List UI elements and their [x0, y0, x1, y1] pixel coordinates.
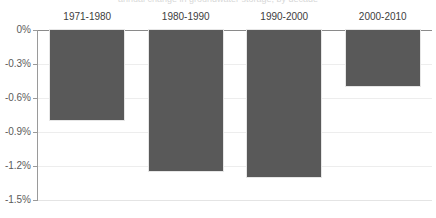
- y-axis-tick-label: -1.2%: [0, 161, 31, 171]
- x-axis-category-label: 1990-2000: [235, 11, 334, 22]
- y-axis-labels: 0%-0.3%-0.6%-0.9%-1.2%-1.5%: [0, 0, 31, 218]
- y-axis-tick-label: -1.5%: [0, 195, 31, 205]
- y-tick-mark: [33, 166, 38, 167]
- bar[interactable]: [247, 30, 321, 177]
- y-axis-tick-label: -0.9%: [0, 127, 31, 137]
- x-axis-category-label: 1980-1990: [137, 11, 236, 22]
- cropped-title-text: annual change in groundwater storage, by…: [118, 0, 318, 4]
- plot-bottom-edge: [38, 200, 432, 201]
- gridline: [38, 132, 432, 133]
- y-tick-mark: [33, 98, 38, 99]
- y-tick-mark: [33, 30, 38, 31]
- plot-area: [38, 30, 432, 200]
- y-tick-mark: [33, 200, 38, 201]
- x-axis-category-label: 1971-1980: [38, 11, 137, 22]
- bar[interactable]: [346, 30, 420, 86]
- y-tick-mark: [33, 64, 38, 65]
- bar[interactable]: [149, 30, 223, 171]
- bar[interactable]: [50, 30, 124, 120]
- y-tick-mark: [33, 132, 38, 133]
- gridline: [38, 166, 432, 167]
- bar-chart: annual change in groundwater storage, by…: [0, 0, 436, 218]
- y-axis-tick-label: -0.3%: [0, 59, 31, 69]
- y-axis-tick-label: 0%: [0, 25, 31, 35]
- x-axis-category-label: 2000-2010: [334, 11, 433, 22]
- cropped-title-sliver: annual change in groundwater storage, by…: [0, 0, 436, 9]
- y-axis-tick-label: -0.6%: [0, 93, 31, 103]
